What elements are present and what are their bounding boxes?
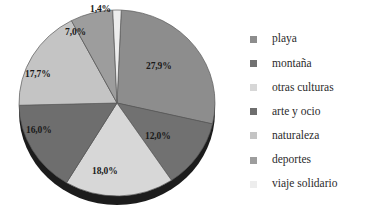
- chart-legend: playamontañaotras culturasarte y ocionat…: [250, 27, 376, 196]
- legend-item-label: otras culturas: [272, 82, 334, 94]
- legend-swatch-icon: [250, 36, 257, 43]
- pie-chart-figure: 27,9%12,0%18,0%16,0%17,7%7,0%1,4% playam…: [0, 0, 376, 217]
- slice-value-label: 27,9%: [146, 62, 172, 72]
- legend-item[interactable]: naturaleza: [250, 124, 376, 148]
- legend-item[interactable]: deportes: [250, 148, 376, 172]
- pie-svg: [0, 0, 240, 217]
- legend-swatch-icon: [250, 181, 257, 188]
- legend-item[interactable]: arte y ocio: [250, 100, 376, 124]
- legend-item[interactable]: otras culturas: [250, 75, 376, 99]
- legend-item-label: naturaleza: [272, 130, 319, 142]
- legend-item-label: viaje solidario: [272, 178, 337, 190]
- legend-swatch-icon: [250, 84, 257, 91]
- legend-item-label: playa: [272, 33, 297, 45]
- legend-item-label: deportes: [272, 154, 311, 166]
- slice-value-label: 7,0%: [65, 28, 86, 38]
- slice-value-label: 1,4%: [90, 5, 111, 15]
- slice-value-label: 18,0%: [92, 167, 118, 177]
- slice-value-label: 12,0%: [145, 132, 171, 142]
- legend-item-label: arte y ocio: [272, 106, 321, 118]
- legend-swatch-icon: [250, 108, 257, 115]
- legend-swatch-icon: [250, 60, 257, 67]
- slice-value-label: 17,7%: [25, 70, 51, 80]
- legend-swatch-icon: [250, 157, 257, 164]
- legend-item[interactable]: playa: [250, 27, 376, 51]
- slice-value-label: 16,0%: [26, 126, 52, 136]
- pie-plot-area: 27,9%12,0%18,0%16,0%17,7%7,0%1,4%: [0, 0, 240, 217]
- legend-item-label: montaña: [272, 58, 312, 70]
- legend-swatch-icon: [250, 132, 257, 139]
- legend-item[interactable]: viaje solidario: [250, 172, 376, 196]
- legend-item[interactable]: montaña: [250, 51, 376, 75]
